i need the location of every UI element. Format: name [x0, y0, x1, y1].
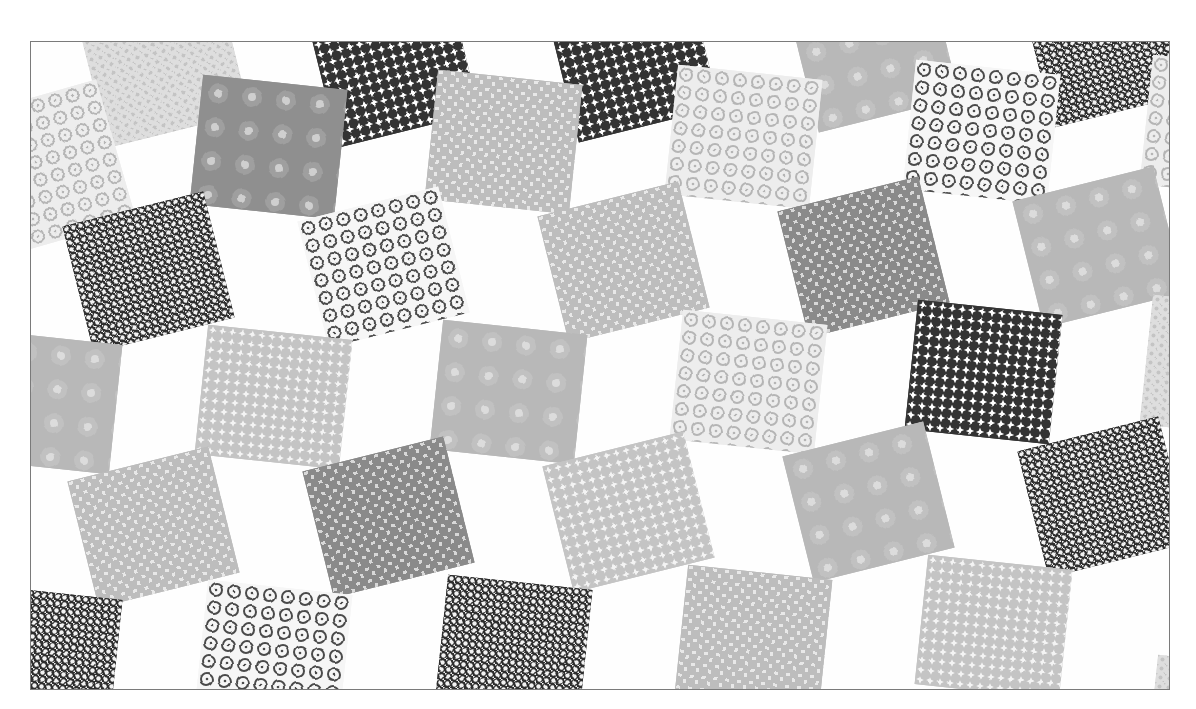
quilt-patch-mottled-light [430, 320, 588, 464]
quilt-patch-weave-light [675, 565, 833, 690]
quilt-patch-pale-stars [195, 325, 353, 469]
quilt-patch-weave-light [425, 70, 583, 214]
quilt-patch-open-flowers [195, 580, 353, 690]
quilt-patch-open-flowers [903, 60, 1061, 204]
quilt-patch-pale-flowers [670, 310, 828, 454]
quilt-patch-dark-floral [30, 585, 122, 690]
quilt-photo-frame [30, 41, 1170, 690]
quilt-patch-mottled-mid [190, 75, 348, 219]
quilt-patch-dark-stars [905, 300, 1063, 444]
quilt-patch-pale-texture [1145, 655, 1170, 690]
quilt-patch-pale-stars [915, 555, 1073, 690]
quilt-patch-dark-floral [435, 575, 593, 690]
quilt-patch-mottled-light [30, 330, 122, 474]
quilt-patch-pale-flowers [665, 65, 823, 209]
